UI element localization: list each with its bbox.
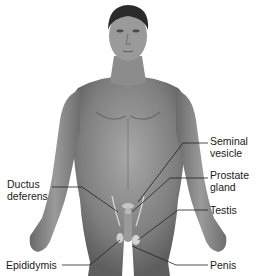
left-arm: [30, 90, 80, 252]
penis-shape: [124, 214, 132, 242]
testis-right: [132, 235, 140, 245]
seminal-vesicle: [122, 203, 134, 209]
testis-left: [117, 233, 124, 243]
label-testis: Testis: [210, 204, 237, 216]
right-eye: [133, 30, 140, 33]
label-ductus-deferens: Ductus deferens: [7, 178, 48, 202]
left-eye: [117, 30, 124, 33]
label-seminal-vesicle: Seminal vesicle: [210, 135, 248, 159]
label-penis: Penis: [210, 259, 236, 271]
leg-gap: [122, 240, 134, 276]
label-prostate-gland: Prostate gland: [210, 169, 249, 193]
label-epididymis: Epididymis: [6, 259, 57, 271]
